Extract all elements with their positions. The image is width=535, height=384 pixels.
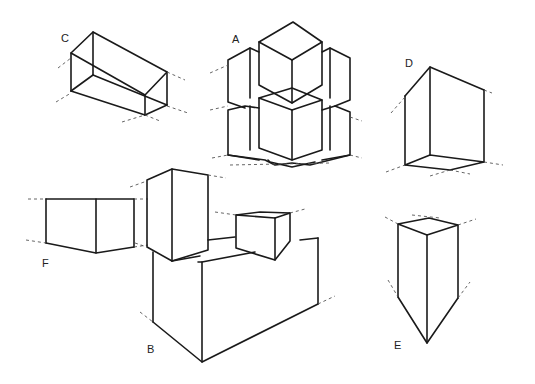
- box-e: [385, 215, 476, 343]
- box-f: [26, 199, 148, 253]
- label-b: B: [147, 343, 154, 355]
- box-d: [386, 67, 503, 176]
- box-c: [56, 32, 188, 122]
- perspective-drawing: [0, 0, 535, 384]
- label-c: C: [61, 32, 69, 44]
- label-f: F: [42, 257, 49, 269]
- box-b: [130, 169, 335, 362]
- label-a: A: [232, 33, 239, 45]
- label-e: E: [394, 339, 401, 351]
- label-d: D: [405, 57, 413, 69]
